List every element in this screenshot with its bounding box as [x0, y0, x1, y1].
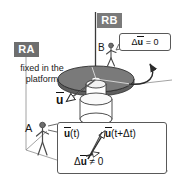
vector-u-symbol: u [56, 93, 63, 107]
fixed-in-platform-note: fixed in the platform [11, 63, 73, 84]
observer-b-label: B [98, 42, 105, 53]
frame-label-rb: RB [97, 13, 122, 28]
callout-b-u-symbol: u [138, 37, 144, 47]
callout-b-relation: = 0 [146, 37, 159, 47]
fixed-note-line1: fixed in the [20, 63, 64, 73]
callout-b-text: Δu = 0 [120, 37, 170, 47]
callout-observer-b: Δu = 0 [119, 33, 171, 51]
observer-a-label: A [25, 122, 32, 134]
fixed-note-line2: platform [26, 74, 59, 84]
observer-b-figure [107, 43, 117, 66]
callout-observer-a: u(t) u(t+Δt) Δu ≠ 0 [57, 122, 167, 174]
vector-u-label: u [56, 93, 63, 107]
physics-diagram-rotating-platform: RA RB fixed in the platform A B u Δu = 0… [0, 0, 179, 180]
frame-label-ra: RA [14, 42, 39, 57]
callout-a-leader [48, 124, 57, 132]
callout-a-vector-triangle [58, 123, 168, 175]
